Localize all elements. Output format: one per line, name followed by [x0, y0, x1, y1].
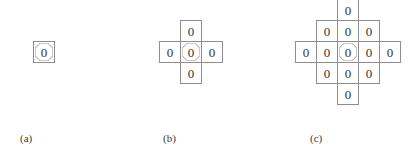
cell-value: 0 — [324, 67, 331, 80]
caption-a: (a) — [20, 133, 32, 144]
cell-value: 0 — [188, 46, 195, 59]
figure-c-cell-east-2: 0 — [379, 41, 401, 63]
cell-value: 0 — [167, 46, 174, 59]
figure-c-cell-north-east: 0 — [358, 20, 380, 42]
figure-b-cell-east: 0 — [201, 41, 223, 63]
figure-c-cell-south-west: 0 — [316, 62, 338, 84]
figure-b-cell-south: 0 — [180, 62, 202, 84]
figure-c-origin-cell: 0 — [337, 41, 359, 63]
cell-value: 0 — [324, 25, 331, 38]
cell-value: 0 — [209, 46, 216, 59]
figure-c-cell-west-2: 0 — [295, 41, 317, 63]
cell-value: 0 — [345, 4, 352, 17]
cell-value: 0 — [188, 67, 195, 80]
figure-c-cell-south-2: 0 — [337, 83, 359, 105]
cell-value: 0 — [303, 46, 310, 59]
cell-value: 0 — [366, 46, 373, 59]
cell-value: 0 — [345, 88, 352, 101]
figure-a-origin-cell: 0 — [33, 41, 55, 63]
cell-value: 0 — [345, 46, 352, 59]
cell-value: 0 — [345, 25, 352, 38]
figure-c-cell-north: 0 — [337, 20, 359, 42]
figure-c-cell-east: 0 — [358, 41, 380, 63]
figure-c-cell-north-2: 0 — [337, 0, 359, 21]
cell-value: 0 — [366, 25, 373, 38]
figure-b-origin-cell: 0 — [180, 41, 202, 63]
cell-value: 0 — [345, 67, 352, 80]
cell-value: 0 — [188, 25, 195, 38]
caption-b: (b) — [163, 133, 176, 144]
caption-c: (c) — [310, 133, 322, 144]
figure-canvas: 0(a)00000(b)0000000000000(c) — [0, 0, 417, 164]
figure-b-cell-west: 0 — [159, 41, 181, 63]
cell-value: 0 — [387, 46, 394, 59]
figure-c-cell-west: 0 — [316, 41, 338, 63]
cell-value: 0 — [41, 46, 48, 59]
figure-c-cell-south: 0 — [337, 62, 359, 84]
cell-value: 0 — [324, 46, 331, 59]
figure-c-cell-south-east: 0 — [358, 62, 380, 84]
cell-value: 0 — [366, 67, 373, 80]
figure-c-cell-north-west: 0 — [316, 20, 338, 42]
figure-b-cell-north: 0 — [180, 20, 202, 42]
